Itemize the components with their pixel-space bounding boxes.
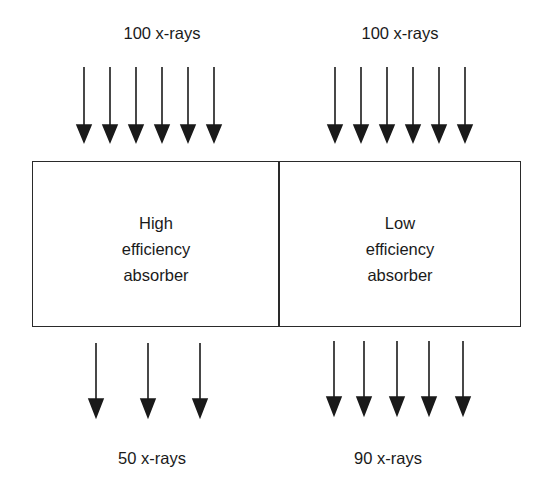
down-arrow-icon [155,67,169,142]
absorber-label-line: Low [325,210,475,236]
down-arrow-icon [77,67,91,142]
down-arrow-icon [406,67,420,142]
absorber-label-line: efficiency [81,236,231,262]
down-arrow-icon [422,341,436,415]
low-efficiency-absorber-label: Low efficiency absorber [325,210,475,288]
right-transmitted-arrows [327,341,470,415]
down-arrow-icon [129,67,143,142]
absorber-label-line: absorber [81,262,231,288]
down-arrow-icon [207,67,221,142]
down-arrow-icon [390,341,404,415]
down-arrow-icon [380,67,394,142]
absorber-label-line: absorber [325,262,475,288]
down-arrow-icon [89,343,103,417]
down-arrow-icon [327,341,341,415]
down-arrow-icon [456,341,470,415]
left-transmitted-arrows [89,343,207,417]
right-transmitted-label: 90 x-rays [354,450,422,467]
down-arrow-icon [458,67,472,142]
absorber-label-line: efficiency [325,236,475,262]
right-incident-arrows [328,67,472,142]
left-incident-arrows [77,67,221,142]
absorber-box: High efficiency absorber Low efficiency … [32,161,521,327]
down-arrow-icon [432,67,446,142]
down-arrow-icon [328,67,342,142]
down-arrow-icon [357,341,371,415]
absorber-label-line: High [81,210,231,236]
absorber-divider [278,162,280,326]
high-efficiency-absorber-label: High efficiency absorber [81,210,231,288]
down-arrow-icon [103,67,117,142]
left-transmitted-label: 50 x-rays [118,450,186,467]
down-arrow-icon [193,343,207,417]
down-arrow-icon [181,67,195,142]
down-arrow-icon [141,343,155,417]
down-arrow-icon [354,67,368,142]
